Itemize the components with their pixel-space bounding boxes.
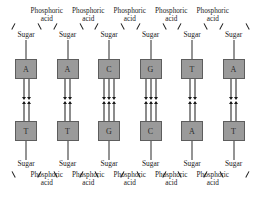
sugar-label-bottom: Sugar (17, 160, 34, 168)
dna-base-pairing-diagram: SugarASugarASugarCSugarGSugarTSugarAPhos… (0, 0, 262, 200)
hydrogen-bond-arrowhead-down (154, 97, 158, 100)
hydrogen-bond-arrowhead-down (234, 97, 238, 100)
phosphoric-acid-label-top: Phosphoricacid (114, 8, 146, 23)
bond-tick-bottom (245, 171, 249, 177)
hydrogen-bond-arrow-up (70, 102, 71, 121)
bond-tick-top (38, 23, 42, 29)
sugar-base-connector-bottom (150, 141, 151, 160)
bond-tick-top (162, 23, 166, 29)
sugar-base-connector-bottom (67, 141, 68, 160)
base-box-top[interactable]: C (98, 59, 120, 79)
hydrogen-bond-arrowhead-down (68, 97, 72, 100)
sugar-label-top: Sugar (142, 31, 159, 39)
bond-tick-top (204, 23, 208, 29)
hydrogen-bond-arrowhead-up (193, 101, 197, 104)
base-box-bottom[interactable]: C (140, 121, 162, 141)
hydrogen-bond-arrowhead-down (144, 97, 148, 100)
base-box-top[interactable]: A (223, 59, 245, 79)
bond-tick-top (121, 23, 125, 29)
sugar-base-connector-top (67, 40, 68, 59)
hydrogen-bond-arrowhead-up (154, 101, 158, 104)
hydrogen-bond-arrow-down (114, 79, 115, 98)
sugar-base-connector-bottom (109, 141, 110, 160)
hydrogen-bond-arrowhead-down (63, 97, 67, 100)
hydrogen-bond-arrowhead-down (149, 97, 153, 100)
hydrogen-bond-arrowhead-up (68, 101, 72, 104)
hydrogen-bond-arrow-up (189, 102, 190, 121)
hydrogen-bond-arrowhead-down (188, 97, 192, 100)
hydrogen-bond-arrowhead-down (112, 97, 116, 100)
sugar-base-connector-top (150, 40, 151, 59)
hydrogen-bond-arrowhead-down (229, 97, 233, 100)
hydrogen-bond-arrow-down (70, 79, 71, 98)
hydrogen-bond-arrow-down (236, 79, 237, 98)
base-box-top[interactable]: G (140, 59, 162, 79)
hydrogen-bond-arrowhead-up (107, 101, 111, 104)
hydrogen-bond-arrow-down (145, 79, 146, 98)
sugar-label-bottom: Sugar (225, 160, 242, 168)
hydrogen-bond-arrowhead-up (234, 101, 238, 104)
bond-tick-top (178, 23, 182, 29)
hydrogen-bond-arrowhead-down (193, 97, 197, 100)
bond-tick-top (53, 23, 57, 29)
base-box-bottom[interactable]: T (57, 121, 79, 141)
hydrogen-bond-arrow-up (236, 102, 237, 121)
hydrogen-bond-arrowhead-up (102, 101, 106, 104)
hydrogen-bond-arrow-up (23, 102, 24, 121)
hydrogen-bond-arrowhead-up (112, 101, 116, 104)
hydrogen-bond-arrow-up (155, 102, 156, 121)
base-box-bottom[interactable]: A (181, 121, 203, 141)
hydrogen-bond-arrowhead-up (144, 101, 148, 104)
hydrogen-bond-arrowhead-up (27, 101, 31, 104)
diagram-canvas: SugarASugarASugarCSugarGSugarTSugarAPhos… (0, 0, 262, 200)
base-box-bottom[interactable]: T (223, 121, 245, 141)
base-box-top[interactable]: A (15, 59, 37, 79)
hydrogen-bond-arrowhead-up (149, 101, 153, 104)
hydrogen-bond-arrow-down (23, 79, 24, 98)
base-box-bottom[interactable]: G (98, 121, 120, 141)
sugar-label-bottom: Sugar (142, 160, 159, 168)
sugar-label-top: Sugar (225, 31, 242, 39)
hydrogen-bond-arrowhead-up (63, 101, 67, 104)
bond-tick-top (12, 23, 16, 29)
hydrogen-bond-arrowhead-down (102, 97, 106, 100)
hydrogen-bond-arrow-down (109, 79, 110, 98)
phosphoric-acid-label-top: Phosphoricacid (72, 8, 104, 23)
sugar-base-connector-top (233, 40, 234, 59)
base-box-bottom[interactable]: T (15, 121, 37, 141)
phosphoric-acid-label-bottom: Phosphoricacid (114, 172, 146, 187)
hydrogen-bond-arrow-down (104, 79, 105, 98)
sugar-base-connector-top (26, 40, 27, 59)
hydrogen-bond-arrow-up (194, 102, 195, 121)
bond-tick-bottom (12, 171, 16, 177)
phosphoric-acid-label-top: Phosphoricacid (31, 8, 63, 23)
phosphoric-acid-label-bottom: Phosphoricacid (31, 172, 63, 187)
hydrogen-bond-arrow-up (231, 102, 232, 121)
hydrogen-bond-arrow-down (189, 79, 190, 98)
bond-tick-top (95, 23, 99, 29)
sugar-label-top: Sugar (17, 31, 34, 39)
hydrogen-bond-arrow-up (145, 102, 146, 121)
hydrogen-bond-arrow-up (104, 102, 105, 121)
hydrogen-bond-arrowhead-down (107, 97, 111, 100)
bond-tick-top (245, 23, 249, 29)
bond-tick-top (136, 23, 140, 29)
sugar-base-connector-top (192, 40, 193, 59)
phosphoric-acid-label-bottom: Phosphoricacid (155, 172, 187, 187)
base-box-top[interactable]: T (181, 59, 203, 79)
phosphoric-acid-label-bottom: Phosphoricacid (197, 172, 229, 187)
hydrogen-bond-arrow-up (114, 102, 115, 121)
hydrogen-bond-arrow-down (155, 79, 156, 98)
hydrogen-bond-arrowhead-down (22, 97, 26, 100)
sugar-label-top: Sugar (183, 31, 200, 39)
sugar-label-bottom: Sugar (59, 160, 76, 168)
hydrogen-bond-arrow-up (150, 102, 151, 121)
sugar-label-top: Sugar (59, 31, 76, 39)
base-box-top[interactable]: A (57, 59, 79, 79)
hydrogen-bond-arrowhead-up (229, 101, 233, 104)
hydrogen-bond-arrowhead-up (188, 101, 192, 104)
hydrogen-bond-arrow-up (28, 102, 29, 121)
hydrogen-bond-arrowhead-down (27, 97, 31, 100)
hydrogen-bond-arrow-down (194, 79, 195, 98)
hydrogen-bond-arrowhead-up (22, 101, 26, 104)
